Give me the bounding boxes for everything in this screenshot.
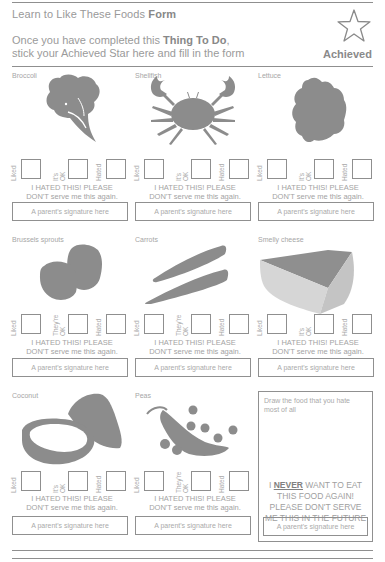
- hated-message: I HATED THIS! PLEASEDON'T serve me this …: [12, 338, 132, 356]
- hated-label: Hated: [95, 476, 102, 493]
- parent-signature-field[interactable]: A parent's signature here: [12, 202, 128, 221]
- hated-message: I HATED THIS! PLEASEDON'T serve me this …: [12, 494, 132, 512]
- hated-checkbox[interactable]: [106, 314, 126, 334]
- liked-label: Liked: [10, 477, 17, 493]
- ok-checkbox[interactable]: [314, 159, 334, 179]
- hated-checkbox[interactable]: [106, 471, 126, 491]
- ok-label: It's: [298, 173, 305, 181]
- food-cell-shellfish: Shellfish Liked It's OK Hated I HAT: [135, 72, 255, 222]
- food-cell-smelly-cheese: Smelly cheese Liked It's OK Hated I HATE…: [258, 236, 378, 386]
- rating-row: Liked It's OK Hated: [258, 312, 378, 338]
- hated-message: I HATED THIS! PLEASEDON'T serve me this …: [135, 494, 255, 512]
- ok-label: It's: [52, 485, 59, 493]
- hated-message: I HATED THIS! PLEASEDON'T serve me this …: [258, 338, 378, 356]
- parent-signature-field[interactable]: A parent's signature here: [12, 358, 128, 377]
- hated-message: I HATED THIS! PLEASEDON'T serve me this …: [135, 183, 255, 201]
- hated-checkbox[interactable]: [106, 159, 126, 179]
- hated-message: I HATED THIS! PLEASEDON'T serve me this …: [135, 338, 255, 356]
- ok-checkbox[interactable]: [68, 314, 88, 334]
- carrots-icon: [143, 242, 243, 304]
- liked-label: Liked: [10, 320, 17, 336]
- liked-checkbox[interactable]: [144, 159, 164, 179]
- parent-signature-field[interactable]: A parent's signature here: [135, 202, 251, 221]
- food-cell-peas: Peas Liked They're OK Hated I HATED THIS…: [135, 392, 255, 542]
- liked-label: Liked: [256, 320, 263, 336]
- hated-checkbox[interactable]: [229, 159, 249, 179]
- hated-message: I HATED THIS! PLEASEDON'T serve me this …: [258, 183, 378, 201]
- liked-checkbox[interactable]: [267, 314, 287, 334]
- brussels-sprouts-icon: [38, 242, 104, 302]
- liked-checkbox[interactable]: [267, 159, 287, 179]
- form-instructions: Once you have completed this Thing To Do…: [12, 34, 244, 60]
- parent-signature-field[interactable]: A parent's signature here: [263, 517, 368, 536]
- liked-checkbox[interactable]: [144, 471, 164, 491]
- liked-checkbox[interactable]: [21, 314, 41, 334]
- hated-message: I HATED THIS! PLEASEDON'T serve me this …: [12, 183, 132, 201]
- ok-label-2: OK: [59, 327, 66, 336]
- peas-icon: [143, 400, 243, 462]
- rating-row: Liked They're OK Hated: [135, 312, 255, 338]
- ok-checkbox[interactable]: [191, 159, 211, 179]
- food-name: Broccoli: [12, 72, 37, 79]
- rating-row: Liked They're OK Hated: [135, 469, 255, 495]
- ok-checkbox[interactable]: [191, 471, 211, 491]
- hated-label: Hated: [341, 164, 348, 181]
- ok-label-2: OK: [182, 172, 189, 181]
- liked-checkbox[interactable]: [144, 314, 164, 334]
- lettuce-icon: [288, 76, 350, 146]
- broccoli-icon: [42, 74, 102, 144]
- rating-row: Liked It's OK Hated: [135, 157, 255, 183]
- ok-label-2: OK: [305, 327, 312, 336]
- parent-signature-field[interactable]: A parent's signature here: [12, 516, 128, 535]
- food-cell-coconut: Coconut Liked It's OK Hated I HATED THIS…: [12, 392, 132, 542]
- parent-signature-field[interactable]: A parent's signature here: [258, 202, 374, 221]
- ok-checkbox[interactable]: [68, 471, 88, 491]
- liked-label: Liked: [10, 165, 17, 181]
- liked-label: Liked: [133, 320, 140, 336]
- star-outline-icon: [337, 9, 371, 43]
- rating-row: Liked It's OK Hated: [12, 469, 132, 495]
- ok-label: They're: [52, 315, 59, 336]
- cheese-icon: [258, 242, 374, 320]
- hated-label: Hated: [341, 319, 348, 336]
- ok-label: It's: [298, 328, 305, 336]
- hated-checkbox[interactable]: [229, 471, 249, 491]
- coconut-icon: [20, 392, 126, 468]
- ok-label-2: OK: [182, 484, 189, 493]
- ok-checkbox[interactable]: [68, 159, 88, 179]
- rating-row: Liked It's OK Hated: [258, 157, 378, 183]
- ok-label-2: OK: [305, 172, 312, 181]
- ok-label: It's: [175, 173, 182, 181]
- bottom-rule: [12, 550, 373, 551]
- ok-label-2: OK: [182, 327, 189, 336]
- ok-label: They're: [175, 472, 182, 493]
- hated-checkbox[interactable]: [229, 314, 249, 334]
- ok-checkbox[interactable]: [314, 314, 334, 334]
- parent-signature-field[interactable]: A parent's signature here: [258, 358, 374, 377]
- hated-checkbox[interactable]: [352, 159, 372, 179]
- ok-label: They're: [175, 315, 182, 336]
- hated-label: Hated: [218, 319, 225, 336]
- hated-label: Hated: [218, 164, 225, 181]
- top-rule: [12, 2, 373, 3]
- draw-hated-food-panel[interactable]: Draw the food that you hate most of all …: [258, 391, 373, 542]
- ok-label: It's: [52, 173, 59, 181]
- liked-checkbox[interactable]: [21, 159, 41, 179]
- liked-label: Liked: [133, 477, 140, 493]
- hated-label: Hated: [95, 164, 102, 181]
- rating-row: Liked It's OK Hated: [12, 157, 132, 183]
- ok-checkbox[interactable]: [191, 314, 211, 334]
- form-title: Learn to Like These Foods Form: [12, 8, 176, 20]
- food-cell-carrots: Carrots Liked They're OK Hated I HATED T…: [135, 236, 255, 386]
- hated-checkbox[interactable]: [352, 314, 372, 334]
- liked-checkbox[interactable]: [21, 471, 41, 491]
- ok-label-2: OK: [59, 172, 66, 181]
- header-bottom-rule: [12, 66, 373, 67]
- next-section-rule: [12, 558, 373, 559]
- food-name: Peas: [135, 392, 151, 399]
- crab-icon: [143, 72, 243, 152]
- parent-signature-field[interactable]: A parent's signature here: [135, 516, 251, 535]
- hated-label: Hated: [218, 476, 225, 493]
- parent-signature-field[interactable]: A parent's signature here: [135, 358, 251, 377]
- hated-label: Hated: [95, 319, 102, 336]
